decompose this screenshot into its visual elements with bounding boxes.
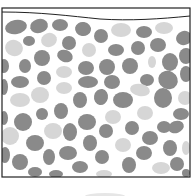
light-pebble (56, 66, 72, 78)
light-pebble (137, 106, 153, 120)
dark-pebble (11, 76, 29, 88)
pebble-container-diagram (0, 0, 193, 196)
dark-pebble (34, 50, 50, 66)
dark-pebble (54, 103, 68, 119)
dark-pebble (78, 76, 98, 88)
dark-pebble (36, 108, 48, 120)
dark-pebble (62, 36, 76, 50)
light-pebble (105, 110, 121, 124)
dark-pebble (72, 161, 88, 173)
dark-pebble (170, 157, 184, 171)
dark-pebble (162, 53, 178, 71)
dark-pebble (19, 59, 31, 73)
dark-pebble (131, 41, 145, 55)
dark-pebble (95, 150, 109, 164)
light-pebble (115, 138, 131, 152)
dark-pebble (83, 135, 97, 151)
dark-pebble (113, 92, 133, 108)
dark-pebble (52, 19, 68, 31)
dark-pebble (104, 75, 120, 89)
dark-pebble (23, 36, 35, 46)
dark-pebble (78, 114, 96, 130)
dark-pebble (182, 169, 190, 177)
dark-pebble (78, 61, 94, 75)
dark-pebble (73, 92, 87, 108)
dark-pebble (163, 140, 177, 156)
dark-pebble (108, 44, 124, 56)
dark-pebble (173, 108, 189, 120)
dark-pebble (37, 71, 51, 85)
dark-pebble (43, 149, 55, 165)
dark-pebble (63, 123, 77, 141)
light-pebble (152, 162, 170, 174)
dark-pebble (59, 146, 77, 160)
dark-pebble (94, 29, 108, 43)
dark-pebble (122, 58, 138, 74)
dark-pebble (136, 146, 152, 160)
light-pebble (111, 23, 131, 37)
light-pebble (182, 141, 190, 155)
dark-pebble (125, 121, 139, 135)
light-pebble (155, 22, 173, 34)
light-pebble (31, 87, 49, 103)
dark-pebble (99, 59, 115, 75)
dark-pebble (142, 131, 158, 145)
dark-pebble (150, 38, 166, 52)
dark-pebble (12, 154, 28, 170)
dark-pebble (140, 74, 154, 86)
dark-pebble (99, 124, 113, 138)
light-pebble (44, 123, 62, 139)
dark-pebble (14, 113, 32, 131)
light-pebble (56, 82, 72, 94)
dark-pebble (28, 167, 42, 177)
dark-pebble (154, 88, 172, 108)
dark-pebble (122, 157, 136, 173)
dark-pebble (136, 26, 152, 38)
dark-pebble (26, 135, 44, 151)
light-pebble (10, 93, 30, 107)
light-pebble (82, 43, 96, 57)
light-pebble (1, 127, 19, 145)
light-pebble (148, 56, 156, 68)
